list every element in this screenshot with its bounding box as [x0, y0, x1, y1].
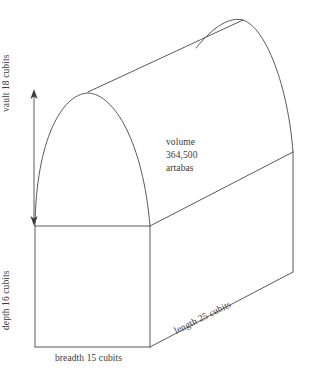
vault-dimension-label: vault 18 cubits	[0, 55, 13, 112]
volume-annotation-line-2: 364,500	[166, 149, 198, 162]
breadth-dimension-label: breadth 15 cubits	[55, 352, 122, 365]
volume-annotation: volume 364,500 artabas	[166, 136, 198, 175]
diagram-canvas	[0, 0, 310, 380]
depth-dimension-label: depth 16 cubits	[0, 270, 13, 330]
volume-annotation-line-3: artabas	[166, 162, 198, 175]
vault-ridge-line	[88, 20, 243, 92]
front-vault-arch	[35, 93, 150, 226]
volume-annotation-line-1: volume	[166, 136, 198, 149]
granary-diagram: vault 18 cubits depth 16 cubits breadth …	[0, 0, 310, 380]
back-vault-arch	[196, 19, 293, 152]
